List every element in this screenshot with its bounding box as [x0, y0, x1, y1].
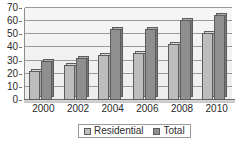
x-tick-label: 2002 — [67, 103, 89, 114]
bar-top — [112, 27, 123, 30]
y-tick-mark — [19, 21, 22, 22]
bar-total-2006 — [145, 29, 156, 100]
bar-face — [41, 61, 52, 100]
bar-group — [24, 8, 59, 100]
bar-total-2002 — [76, 58, 87, 100]
y-tick-label: 70 — [7, 3, 18, 13]
bar-top — [78, 56, 89, 59]
bar-face — [133, 53, 144, 100]
y-tick-mark — [19, 47, 22, 48]
y-tick-mark — [19, 74, 22, 75]
y-tick-label: 20 — [7, 69, 18, 79]
y-axis: 010203040506070 — [0, 0, 22, 108]
bar-residential-2008 — [168, 44, 179, 101]
bar-residential-2004 — [98, 55, 109, 100]
y-tick-label: 60 — [7, 16, 18, 26]
bar-face — [98, 55, 109, 100]
bar-group — [163, 8, 198, 100]
bar-face — [76, 58, 87, 100]
y-tick-label: 40 — [7, 42, 18, 52]
x-tick-label: 2000 — [32, 103, 54, 114]
bar-face — [168, 44, 179, 101]
bar-group — [128, 8, 163, 100]
legend-item-total[interactable]: Total — [153, 126, 184, 136]
y-tick-label: 10 — [7, 82, 18, 92]
bar-chart: 010203040506070 200020022004200620082010… — [0, 0, 241, 143]
y-tick-mark — [19, 8, 22, 9]
y-tick-label: 0 — [12, 95, 18, 105]
bar-residential-2006 — [133, 53, 144, 100]
bar-group — [197, 8, 232, 100]
x-tick-label: 2006 — [136, 103, 158, 114]
legend-swatch-icon — [153, 128, 160, 135]
bar-residential-2010 — [202, 33, 213, 100]
legend-label: Total — [163, 126, 184, 136]
y-tick-label: 50 — [7, 29, 18, 39]
bar-group — [93, 8, 128, 100]
x-tick-label: 2008 — [171, 103, 193, 114]
bar-total-2004 — [110, 29, 121, 100]
bar-total-2010 — [214, 15, 225, 100]
bar-group — [59, 8, 94, 100]
bar-top — [182, 18, 193, 21]
y-tick-mark — [19, 87, 22, 88]
bar-total-2000 — [41, 61, 52, 100]
bars-layer — [24, 8, 232, 100]
bar-top — [43, 59, 54, 62]
legend-item-residential[interactable]: Residential — [84, 126, 143, 136]
bar-face — [64, 65, 75, 100]
bar-face — [214, 15, 225, 100]
bar-face — [110, 29, 121, 100]
bar-face — [145, 29, 156, 100]
x-axis: 200020022004200620082010 — [24, 103, 232, 119]
bar-total-2008 — [180, 20, 191, 100]
y-tick-mark — [19, 34, 22, 35]
x-tick-label: 2010 — [206, 103, 228, 114]
legend: ResidentialTotal — [78, 124, 191, 138]
y-tick-mark — [19, 100, 22, 101]
y-tick-label: 30 — [7, 56, 18, 66]
bar-top — [147, 27, 158, 30]
legend-swatch-icon — [84, 128, 91, 135]
bar-residential-2000 — [29, 71, 40, 100]
bar-residential-2002 — [64, 65, 75, 100]
bar-face — [202, 33, 213, 100]
legend-label: Residential — [94, 126, 143, 136]
bar-face — [180, 20, 191, 100]
bar-top — [216, 13, 227, 16]
bar-face — [29, 71, 40, 100]
x-tick-label: 2004 — [102, 103, 124, 114]
y-tick-mark — [19, 61, 22, 62]
